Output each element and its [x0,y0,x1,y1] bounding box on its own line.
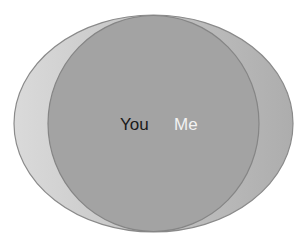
label-me: Me [174,116,198,133]
label-you: You [120,116,149,133]
set-me-circle [48,16,259,232]
euler-diagram [0,0,308,246]
